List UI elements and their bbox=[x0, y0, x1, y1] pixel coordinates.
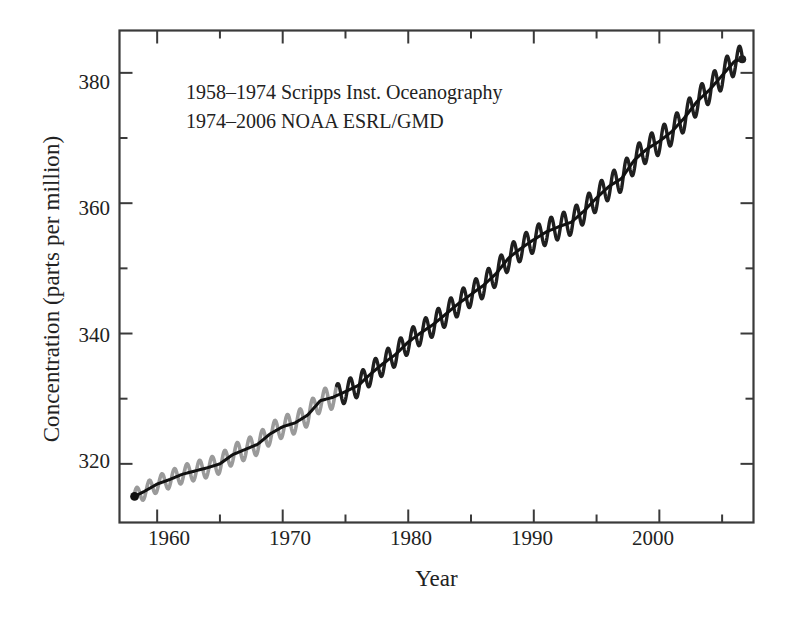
y-tick-label-360: 360 bbox=[48, 198, 110, 219]
y-tick-label-380: 380 bbox=[48, 72, 110, 93]
annotation-line-scripps: 1958–1974 Scripps Inst. Oceanography bbox=[186, 78, 503, 107]
series-end-marker bbox=[738, 55, 746, 63]
series-start-marker bbox=[130, 492, 139, 501]
co2-concentration-chart: Concentration (parts per million) Year 3… bbox=[0, 0, 788, 628]
data-source-annotation: 1958–1974 Scripps Inst. Oceanography 197… bbox=[186, 78, 503, 136]
y-tick-label-group: 380 360 340 320 bbox=[44, 0, 110, 628]
x-tick-label-1970: 1970 bbox=[250, 528, 330, 549]
x-tick-label-1990: 1990 bbox=[492, 528, 572, 549]
annotation-line-noaa: 1974–2006 NOAA ESRL/GMD bbox=[186, 107, 503, 136]
x-tick-label-2000: 2000 bbox=[613, 528, 693, 549]
x-tick-label-1980: 1980 bbox=[371, 528, 451, 549]
y-tick-label-340: 340 bbox=[48, 325, 110, 346]
y-tick-label-320: 320 bbox=[48, 451, 110, 472]
x-axis-label: Year bbox=[119, 566, 754, 592]
x-tick-label-1960: 1960 bbox=[129, 528, 209, 549]
